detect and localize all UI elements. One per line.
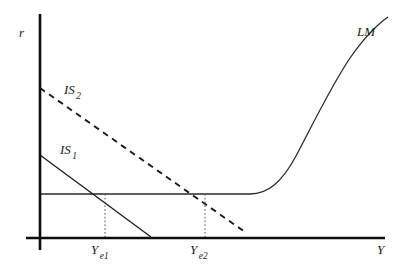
ye1-label-subscript: e1	[98, 251, 108, 261]
is1-curve-label: IS1	[60, 143, 77, 160]
x-axis-label: Y	[377, 243, 384, 256]
is1-curve-label-subscript: 1	[71, 151, 77, 161]
is2-curve-label: IS2	[64, 83, 81, 100]
ye1-label: Ye1	[91, 243, 109, 260]
is-lm-figure: r Y LM IS2 IS1 Ye1 Ye2	[0, 0, 410, 271]
lm-curve	[40, 17, 388, 194]
lm-curve-label: LM	[357, 25, 375, 38]
plot-canvas	[0, 0, 410, 271]
y-axis-label: r	[19, 26, 24, 39]
is1-curve-label-text: IS	[60, 142, 71, 157]
lm-curve-label-text: LM	[357, 24, 375, 39]
is2-curve-label-subscript: 2	[75, 91, 81, 101]
is2-curve-label-text: IS	[64, 82, 75, 97]
is1-curve	[40, 155, 151, 237]
ye2-label-subscript: e2	[197, 251, 207, 261]
ye2-label: Ye2	[190, 243, 208, 260]
